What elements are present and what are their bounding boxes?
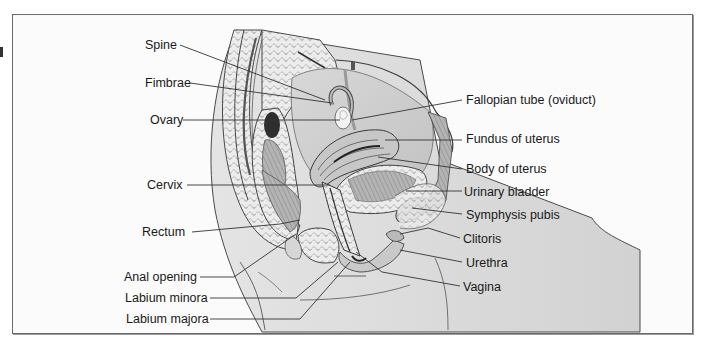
label-fundus-of-uterus: Fundus of uterus xyxy=(466,132,560,146)
label-vagina: Vagina xyxy=(463,280,501,294)
label-anal-opening: Anal opening xyxy=(124,270,197,284)
label-labium-majora: Labium majora xyxy=(126,312,209,326)
label-labium-minora: Labium minora xyxy=(125,291,208,305)
label-body-of-uterus: Body of uterus xyxy=(466,162,547,176)
label-spine: Spine xyxy=(145,38,177,52)
label-symphysis-pubis: Symphysis pubis xyxy=(466,208,560,222)
label-fimbrae: Fimbrae xyxy=(145,76,191,90)
label-clitoris: Clitoris xyxy=(463,232,501,246)
label-urethra: Urethra xyxy=(466,256,508,270)
anatomy-illustration xyxy=(0,0,703,346)
label-ovary: Ovary xyxy=(150,113,183,127)
label-cervix: Cervix xyxy=(147,178,182,192)
label-rectum: Rectum xyxy=(142,225,185,239)
label-urinary-bladder: Urinary bladder xyxy=(464,185,549,199)
label-fallopian-tube: Fallopian tube (oviduct) xyxy=(466,93,596,107)
